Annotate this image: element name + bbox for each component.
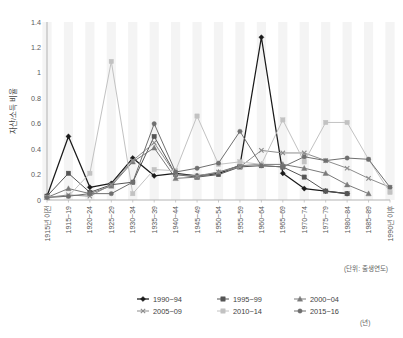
data-point-marker: [323, 158, 327, 162]
x-tick-label: 1990년 이후: [386, 205, 395, 242]
data-point-marker: [216, 161, 220, 165]
data-point-marker: [345, 156, 349, 160]
data-point-marker: [66, 171, 70, 175]
data-point-marker: [345, 120, 349, 124]
data-point-marker: [388, 190, 392, 194]
x-tick-label: 1925~29: [108, 206, 115, 234]
grid-band: [343, 22, 352, 200]
legend-label: 1995~99: [233, 295, 262, 304]
y-tick-label: 1.2: [31, 43, 41, 52]
data-point-marker: [66, 194, 70, 198]
x-tick-label: 1915~19: [65, 206, 72, 234]
grid-band: [107, 22, 116, 200]
grid-band: [300, 22, 309, 200]
data-point-marker: [131, 180, 135, 184]
x-tick-label: 1920~24: [86, 206, 93, 234]
y-tick-label: 0.4: [31, 145, 41, 154]
data-point-marker: [88, 191, 92, 195]
y-tick-label: 1: [37, 68, 41, 77]
y-tick-label: 0: [37, 196, 41, 205]
x-axis-caption: (단위: 출생연도): [344, 264, 388, 273]
legend-item-2010-14[interactable]: 2010~14: [217, 307, 262, 316]
legend-item-1995-99[interactable]: 1995~99: [217, 295, 262, 304]
legend-unit-note: (년): [360, 318, 370, 327]
data-point-marker: [221, 309, 225, 313]
data-point-marker: [388, 185, 392, 189]
x-tick-label: 1955~59: [237, 206, 244, 234]
data-point-marker: [238, 129, 242, 133]
x-tick-label: 1950~54: [215, 206, 222, 234]
data-point-marker: [259, 163, 263, 167]
data-point-marker: [221, 297, 225, 301]
asset-income-ratio-line-chart: 00.20.40.60.811.21.4 1915년 이전1915~191920…: [0, 0, 403, 338]
x-axis-caption-text: (단위: 출생연도): [344, 264, 388, 273]
x-tick-label: 1975~79: [322, 206, 329, 234]
y-tick-label: 1.4: [31, 18, 41, 27]
data-point-marker: [298, 309, 302, 313]
legend-item-1990-94[interactable]: 1990~94: [137, 295, 182, 304]
legend-label: 2000~04: [310, 295, 339, 304]
legend-item-2015-16[interactable]: 2015~16: [294, 307, 339, 316]
x-tick-label: 1985~89: [365, 206, 372, 234]
data-point-marker: [88, 171, 92, 175]
y-axis-title-text: 자산/소득 비율: [8, 88, 18, 134]
y-axis-ticks: 00.20.40.60.811.21.4: [31, 18, 41, 205]
x-tick-label: 1935~39: [151, 206, 158, 234]
y-axis-title: 자산/소득 비율: [8, 88, 18, 134]
x-tick-label: 1930~34: [129, 206, 136, 234]
legend-unit-text: (년): [360, 318, 370, 327]
grid-band: [385, 22, 394, 200]
grid-band: [235, 22, 244, 200]
data-point-marker: [195, 166, 199, 170]
x-tick-label: 1915년 이전: [43, 206, 52, 242]
data-point-marker: [45, 195, 49, 199]
x-tick-label: 1970~74: [301, 206, 308, 234]
legend-label: 2010~14: [233, 307, 262, 316]
x-axis-ticks: 1915년 이전1915~191920~241925~291930~341935…: [43, 200, 395, 242]
data-point-marker: [152, 122, 156, 126]
y-tick-label: 0.2: [31, 170, 41, 179]
grid-band: [364, 22, 373, 200]
data-point-marker: [302, 175, 306, 179]
x-tick-label: 1940~44: [172, 206, 179, 234]
chart-legend[interactable]: 1990~941995~992000~042005~092010~142015~…: [137, 295, 339, 316]
data-point-marker: [131, 191, 135, 195]
data-point-marker: [323, 189, 327, 193]
x-tick-label: 1960~64: [258, 206, 265, 234]
y-tick-label: 0.8: [31, 94, 41, 103]
data-point-marker: [302, 155, 306, 159]
x-tick-label: 1965~69: [279, 206, 286, 234]
x-tick-label: 1945~49: [194, 206, 201, 234]
data-point-marker: [238, 160, 242, 164]
data-point-marker: [109, 191, 113, 195]
grid-band: [257, 22, 266, 200]
legend-label: 1990~94: [153, 295, 182, 304]
data-point-marker: [281, 165, 285, 169]
data-point-marker: [195, 114, 199, 118]
data-point-marker: [281, 118, 285, 122]
y-tick-label: 0.6: [31, 119, 41, 128]
legend-label: 2015~16: [310, 307, 339, 316]
chart-container: 00.20.40.60.811.21.4 1915년 이전1915~191920…: [0, 0, 403, 338]
data-point-marker: [109, 59, 113, 63]
data-point-marker: [302, 160, 306, 164]
data-point-marker: [152, 167, 156, 171]
data-point-marker: [152, 134, 156, 138]
legend-label: 2005~09: [153, 307, 182, 316]
data-point-marker: [140, 296, 145, 301]
data-point-marker: [345, 191, 349, 195]
legend-item-2005-09[interactable]: 2005~09: [137, 307, 182, 316]
data-point-marker: [366, 157, 370, 161]
data-point-marker: [323, 120, 327, 124]
legend-item-2000-04[interactable]: 2000~04: [294, 295, 339, 304]
x-tick-label: 1980~84: [344, 206, 351, 234]
data-point-marker: [173, 170, 177, 174]
